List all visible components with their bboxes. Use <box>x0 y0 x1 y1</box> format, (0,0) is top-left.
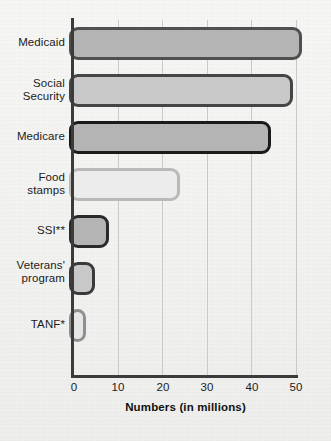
category-label-tanf: TANF* <box>31 318 65 331</box>
bar-chart-figure: Medicaid Social Security Medicare Food s… <box>0 0 331 441</box>
category-label-social-security: Social Security <box>23 77 65 102</box>
plot-area <box>73 20 297 375</box>
category-label-veterans-program: Veterans' program <box>17 259 66 284</box>
xtick-label-50: 50 <box>281 381 311 393</box>
bar-social-security[interactable] <box>69 74 293 107</box>
xtick-label-30: 30 <box>192 381 222 393</box>
category-label-ssi: SSI** <box>37 224 65 237</box>
x-axis-title: Numbers (in millions) <box>0 401 331 413</box>
category-label-medicaid: Medicaid <box>18 36 65 49</box>
xtick-label-40: 40 <box>237 381 267 393</box>
xtick-label-10: 10 <box>103 381 133 393</box>
bar-medicaid[interactable] <box>69 27 302 60</box>
y-axis-line <box>71 18 74 378</box>
xtick-label-0: 0 <box>59 381 89 393</box>
x-axis-line <box>71 375 298 378</box>
bar-medicare[interactable] <box>69 121 271 154</box>
category-label-medicare: Medicare <box>17 130 65 143</box>
bar-food-stamps[interactable] <box>69 168 180 201</box>
xtick-label-20: 20 <box>148 381 178 393</box>
bar-ssi[interactable] <box>69 215 109 248</box>
gridline-50 <box>296 20 297 375</box>
category-label-food-stamps: Food stamps <box>27 171 65 196</box>
